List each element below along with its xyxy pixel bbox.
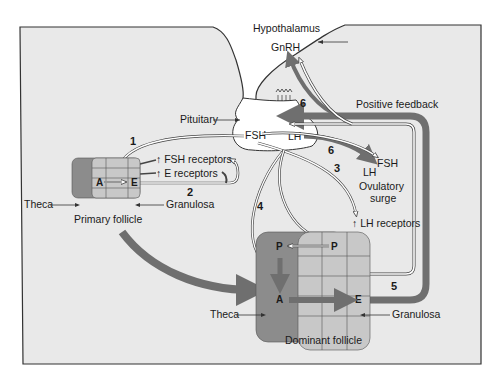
e-receptors-label: ↑ E receptors xyxy=(156,167,218,179)
dominant-follicle-label: Dominant follicle xyxy=(285,334,362,346)
primary-follicle-label: Primary follicle xyxy=(74,213,142,225)
surge-label: surge xyxy=(370,192,396,204)
primary-follicle: A E xyxy=(72,158,140,198)
theca-primary-label: Theca xyxy=(24,198,53,210)
diagram-canvas: Hypothalamus GnRH Pituitary FSH LH Posit… xyxy=(0,0,502,392)
step-2: 2 xyxy=(187,186,193,198)
primary-cell-e: E xyxy=(131,177,138,188)
pituitary-label: Pituitary xyxy=(180,113,219,125)
step-6-upper: 6 xyxy=(300,97,306,109)
dominant-follicle: P P A E xyxy=(256,232,370,350)
surge-lh-label: LH xyxy=(363,166,376,178)
ovulatory-label: Ovulatory xyxy=(359,180,405,192)
dominant-cell-a: A xyxy=(276,294,283,305)
dominant-cell-p-granulosa: P xyxy=(331,241,338,252)
fsh-receptors-label: ↑ FSH receptors xyxy=(156,153,232,165)
gnrh-label: GnRH xyxy=(271,41,300,53)
step-4: 4 xyxy=(257,200,264,212)
primary-cell-a: A xyxy=(96,177,103,188)
granulosa-primary-label: Granulosa xyxy=(166,198,215,210)
granulosa-dominant-label: Granulosa xyxy=(392,308,441,320)
step-6-lower: 6 xyxy=(328,144,334,156)
step-3: 3 xyxy=(334,162,340,174)
step-1: 1 xyxy=(130,135,136,147)
lh-receptors-label: ↑ LH receptors xyxy=(352,217,420,229)
positive-feedback-label: Positive feedback xyxy=(356,98,439,110)
step-5: 5 xyxy=(391,280,397,292)
theca-dominant-label: Theca xyxy=(210,308,239,320)
surge-fsh-label: FSH xyxy=(377,157,398,169)
hypothalamus-label: Hypothalamus xyxy=(253,22,320,34)
dominant-cell-p-theca: P xyxy=(276,241,283,252)
dominant-cell-e: E xyxy=(355,294,362,305)
